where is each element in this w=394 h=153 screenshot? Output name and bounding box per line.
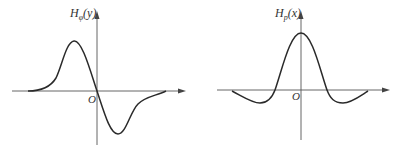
left-x-axis-arrow-icon xyxy=(178,89,186,94)
right-y-label: Hp(x) xyxy=(274,6,301,22)
left-y-label: Hφ(y) xyxy=(69,6,96,22)
plot-right: Hp(x) O xyxy=(217,6,390,140)
right-curve xyxy=(232,33,368,103)
right-x-axis-arrow-icon xyxy=(382,88,390,93)
left-origin-label: O xyxy=(88,93,96,105)
plot-left: Hφ(y) O xyxy=(12,6,186,145)
figure: Hφ(y) O Hp(x) O xyxy=(0,0,394,153)
figure-svg: Hφ(y) O Hp(x) O xyxy=(0,0,394,153)
right-origin-label: O xyxy=(292,90,300,102)
